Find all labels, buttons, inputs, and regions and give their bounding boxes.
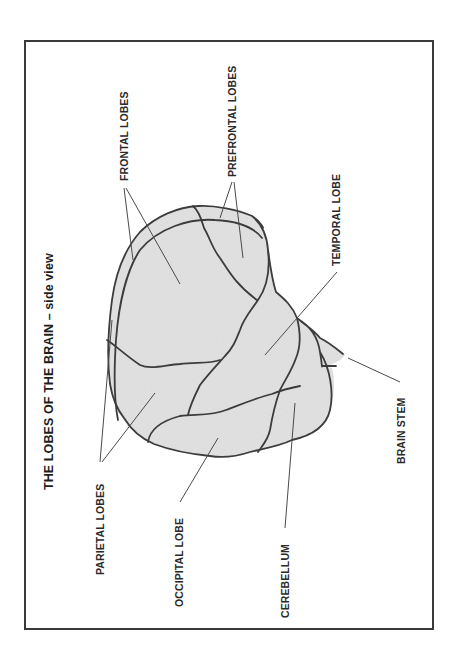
label-frontal-lobes: FRONTAL LOBES [119, 91, 130, 181]
label-temporal-lobe: TEMPORAL LOBE [331, 174, 342, 266]
leader-brainstem [348, 358, 400, 382]
label-brain-stem: BRAIN STEM [396, 398, 407, 464]
leader-parietal-1 [100, 320, 112, 462]
label-parietal-lobes: PARIETAL LOBES [95, 484, 106, 575]
brain-silhouette [108, 206, 345, 457]
diagram-title: THE LOBES OF THE BRAIN – side view [43, 253, 56, 490]
label-prefrontal-lobes: PREFRONTAL LOBES [227, 66, 238, 177]
label-cerebellum: CEREBELLUM [280, 544, 291, 618]
label-occipital-lobe: OCCIPITAL LOBE [174, 518, 185, 607]
